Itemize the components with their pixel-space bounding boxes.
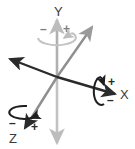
y-rotation-minus-sign: – — [40, 22, 47, 36]
axes-svg-canvas: Y Z X – + + – — [0, 0, 135, 149]
z-rotation-indicator: – + — [9, 106, 38, 134]
y-axis-label: Y — [54, 4, 63, 19]
x-rotation-minus-sign: – — [107, 93, 114, 107]
x-axis-positive-ray — [57, 77, 115, 94]
y-rotation-plus-sign: + — [63, 22, 70, 36]
x-axis-label: X — [120, 87, 129, 102]
z-axis-label: Z — [9, 131, 17, 146]
z-rotation-minus-sign: – — [9, 116, 16, 130]
x-rotation-plus-sign: + — [108, 75, 115, 89]
coordinate-axes-diagram: Y Z X – + + – — [0, 0, 135, 149]
x-rotation-arrowhead — [101, 77, 104, 85]
x-axis-negative-ray — [10, 59, 57, 77]
z-axis-positive-ray — [25, 77, 57, 128]
z-rotation-plus-sign: + — [31, 120, 38, 134]
